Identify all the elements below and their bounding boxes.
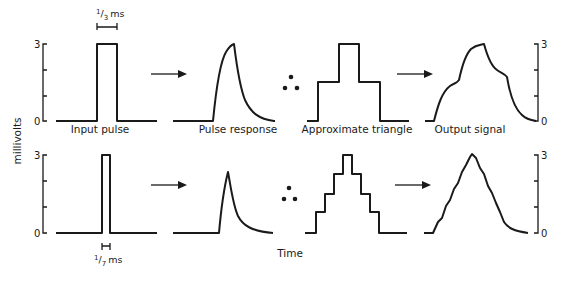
label-output-signal: Output signal [435, 123, 506, 135]
svg-text:1/3ms: 1/3ms [96, 8, 124, 22]
approx-triangle-top [307, 44, 409, 121]
svg-text:3: 3 [541, 39, 547, 50]
input-pulse-top [56, 44, 157, 121]
arrow-icon [151, 70, 187, 78]
bottom-right-axis: 3 0 [534, 150, 547, 239]
svg-text:1/7ms: 1/7ms [94, 254, 122, 268]
label-approximate-triangle: Approximate triangle [302, 123, 413, 135]
arrow-icon [395, 181, 431, 189]
arrow-icon [397, 70, 433, 78]
therefore-icon [282, 186, 298, 202]
therefore-icon [283, 75, 300, 91]
top-left-axis: 3 0 [34, 39, 47, 127]
x-axis-label: Time [276, 247, 303, 259]
y-axis-label: millivolts [11, 117, 23, 164]
label-pulse-response: Pulse response [199, 123, 278, 135]
bottom-left-axis: 3 0 [34, 150, 47, 239]
input-pulse-bottom [56, 155, 157, 233]
svg-text:0: 0 [34, 228, 40, 239]
svg-text:0: 0 [541, 116, 547, 127]
pulse-response-top [173, 44, 275, 121]
output-signal-top [425, 44, 536, 121]
label-input-pulse: Input pulse [71, 123, 130, 135]
svg-text:0: 0 [541, 228, 547, 239]
signal-diagram: 3 0 1/3ms Input pulse Pulse response App… [0, 0, 569, 281]
top-right-axis: 3 0 [534, 39, 547, 127]
arrow-icon [151, 181, 187, 189]
approx-triangle-bottom [305, 155, 407, 233]
output-signal-bottom [424, 154, 528, 233]
svg-text:3: 3 [34, 150, 40, 161]
top-row: 3 0 1/3ms Input pulse Pulse response App… [34, 8, 547, 135]
pulse-width-annotation-top: 1/3ms [96, 8, 124, 30]
tick-0: 0 [34, 116, 40, 127]
pulse-width-annotation-bottom: 1/7ms [94, 243, 122, 268]
tick-3: 3 [34, 39, 40, 50]
svg-text:3: 3 [541, 150, 547, 161]
pulse-response-bottom [173, 172, 273, 233]
